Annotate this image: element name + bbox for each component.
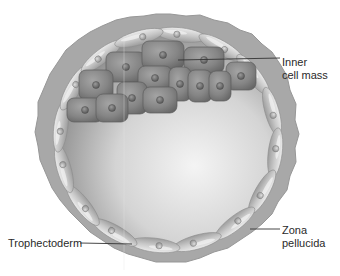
label-zona-pellucida-line1: Zona: [282, 224, 325, 237]
nucleus: [160, 52, 167, 59]
label-inner-cell-mass: Inner cell mass: [282, 56, 328, 82]
label-trophectoderm: Trophectoderm: [8, 237, 82, 250]
nucleus: [177, 81, 184, 88]
label-zona-pellucida-line2: pellucida: [282, 237, 325, 250]
label-trophectoderm-line1: Trophectoderm: [8, 237, 82, 250]
nucleus: [217, 83, 224, 90]
nucleus: [238, 73, 245, 80]
nucleus: [197, 83, 204, 90]
label-inner-cell-mass-line2: cell mass: [282, 69, 328, 82]
label-inner-cell-mass-line1: Inner: [282, 56, 328, 69]
label-zona-pellucida: Zona pellucida: [282, 224, 325, 250]
inner-cell-mass-cell: [143, 87, 177, 113]
nucleus: [82, 107, 89, 114]
nucleus: [123, 64, 130, 71]
inner-cell-mass-cell: [188, 70, 212, 102]
inner-cell-mass-cell: [142, 41, 184, 69]
nucleus: [201, 57, 208, 64]
inner-cell-mass-cell: [209, 71, 231, 101]
nucleus: [93, 82, 100, 89]
nucleus: [152, 75, 159, 82]
inner-cell-mass-cell: [96, 94, 128, 122]
nucleus: [109, 105, 116, 112]
nucleus: [157, 97, 164, 104]
nucleus: [129, 95, 136, 102]
